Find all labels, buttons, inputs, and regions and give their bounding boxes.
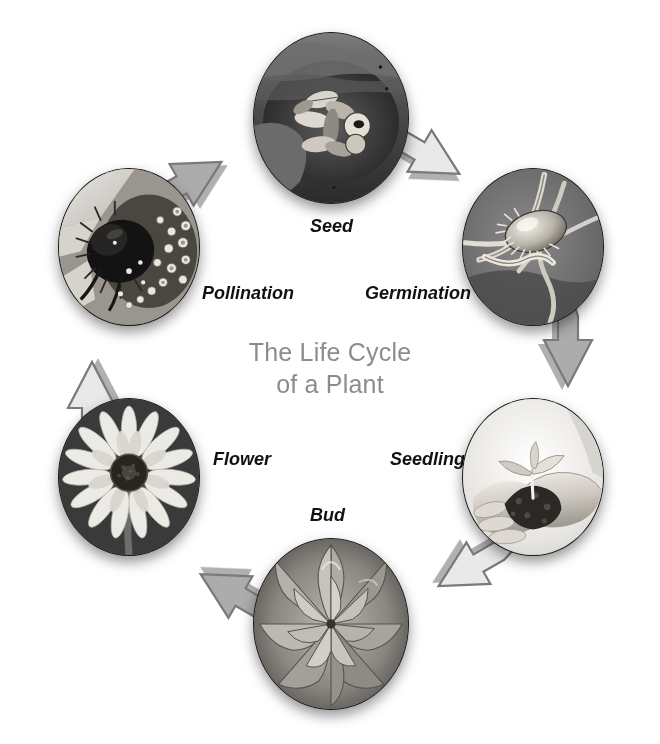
stage-node-seedling[interactable]: [462, 398, 602, 554]
life-cycle-diagram: Seed: [0, 0, 660, 744]
stage-node-flower[interactable]: [58, 398, 198, 554]
sunflower-bloom-photo: [58, 398, 200, 556]
stage-label-seed: Seed: [310, 216, 353, 237]
stage-label-flower: Flower: [213, 449, 271, 470]
bee-pollinating-photo: [58, 168, 200, 326]
seedling-in-hands-photo: [462, 398, 604, 556]
diagram-title: The Life Cycle of a Plant: [0, 336, 660, 400]
stage-node-germination[interactable]: [462, 168, 602, 324]
germinating-seed-photo: [462, 168, 604, 326]
seeds-in-hand-photo: [253, 32, 409, 204]
stage-label-pollination: Pollination: [202, 283, 294, 304]
stage-node-seed[interactable]: [253, 32, 407, 202]
stage-node-pollination[interactable]: [58, 168, 198, 324]
stage-label-bud: Bud: [310, 505, 345, 526]
stage-node-bud[interactable]: [253, 538, 407, 708]
flower-bud-photo: [253, 538, 409, 710]
stage-label-germination: Germination: [365, 283, 471, 304]
stage-label-seedling: Seedling: [390, 449, 465, 470]
